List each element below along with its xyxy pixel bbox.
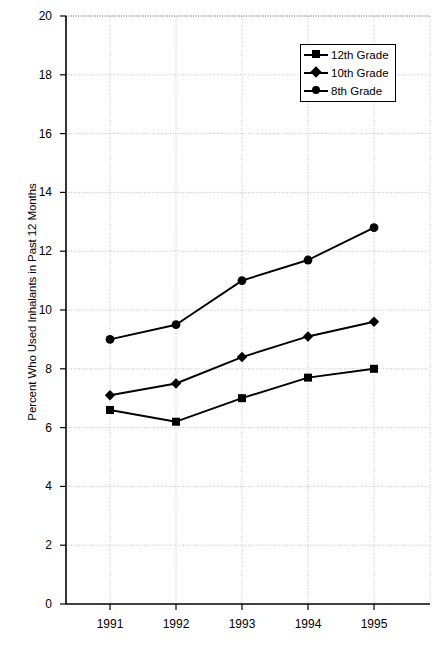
y-tick-label: 0 (18, 598, 52, 610)
y-tick-label: 12 (18, 245, 52, 257)
x-tick-label: 1995 (344, 618, 404, 630)
data-point (172, 320, 181, 329)
data-point (238, 394, 246, 402)
y-tick-label: 6 (18, 422, 52, 434)
y-tick-label: 14 (18, 186, 52, 198)
y-tick-label: 18 (18, 69, 52, 81)
legend-marker-diamond-icon (301, 64, 331, 82)
legend-label: 12th Grade (331, 46, 389, 64)
data-point (106, 335, 115, 344)
data-point (238, 276, 247, 285)
legend: 12th Grade 10th Grade 8th Grade (300, 44, 396, 102)
legend-marker-square-icon (301, 46, 331, 64)
legend-label: 10th Grade (331, 64, 389, 82)
legend-item-8th-grade[interactable]: 8th Grade (301, 82, 397, 100)
y-tick-label: 10 (18, 304, 52, 316)
data-point (106, 406, 114, 414)
data-point (171, 378, 181, 388)
data-point (370, 365, 378, 373)
x-tick-label: 1993 (212, 618, 272, 630)
data-point (304, 256, 313, 265)
data-point (370, 223, 379, 232)
y-tick-label: 20 (18, 10, 52, 22)
data-point (172, 418, 180, 426)
series-layer (105, 223, 379, 425)
x-tick-label: 1991 (80, 618, 140, 630)
data-point (304, 374, 312, 382)
legend-item-10th-grade[interactable]: 10th Grade (301, 64, 397, 82)
y-tick-label: 8 (18, 363, 52, 375)
legend-item-12th-grade[interactable]: 12th Grade (301, 46, 397, 64)
legend-label: 8th Grade (331, 82, 382, 100)
x-tick-label: 1994 (278, 618, 338, 630)
data-point (303, 331, 313, 341)
data-point (369, 317, 379, 327)
x-tick-marks (110, 604, 374, 610)
horizontal-gridlines (66, 75, 430, 545)
legend-marker-circle-icon (301, 82, 331, 100)
data-point (105, 390, 115, 400)
y-tick-label: 2 (18, 539, 52, 551)
data-point (237, 352, 247, 362)
chart-container: Percent Who Used Inhalants in Past 12 Mo… (0, 0, 448, 661)
y-tick-label: 16 (18, 128, 52, 140)
x-tick-label: 1992 (146, 618, 206, 630)
y-tick-marks (60, 16, 66, 604)
y-tick-label: 4 (18, 480, 52, 492)
